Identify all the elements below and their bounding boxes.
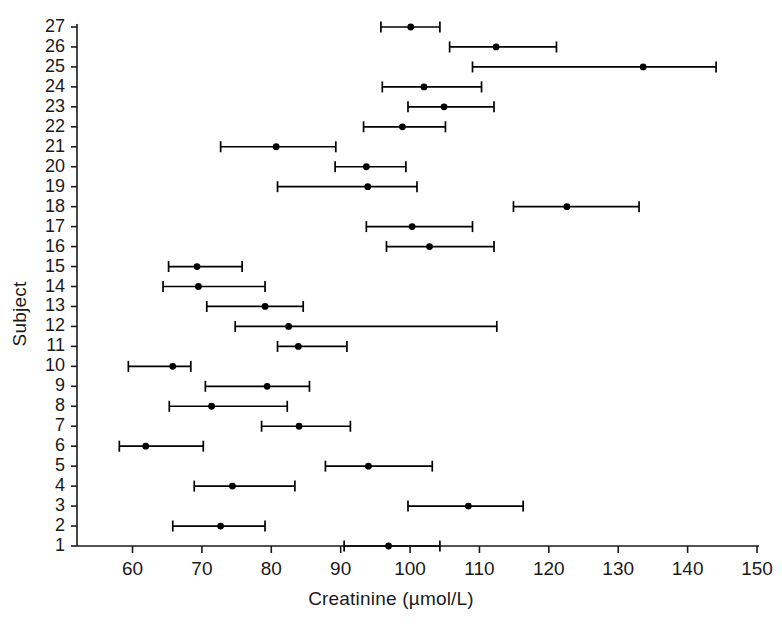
data-row-subject-9 xyxy=(205,381,309,392)
data-point-marker xyxy=(563,203,570,210)
data-point-marker xyxy=(285,323,292,330)
data-point-marker xyxy=(169,363,176,370)
data-point-marker xyxy=(296,423,303,430)
data-point-marker xyxy=(194,263,201,270)
data-row-subject-13 xyxy=(207,301,303,312)
data-row-subject-3 xyxy=(408,501,523,512)
y-tick-label-10: 10 xyxy=(25,355,65,376)
data-point-marker xyxy=(407,24,414,31)
y-tick-label-18: 18 xyxy=(25,196,65,217)
y-tick-label-21: 21 xyxy=(25,136,65,157)
x-axis-title: Creatinine (µmol/L) xyxy=(0,588,782,610)
data-row-subject-21 xyxy=(221,141,336,152)
y-tick-label-19: 19 xyxy=(25,176,65,197)
data-row-subject-7 xyxy=(262,421,351,432)
y-tick-label-13: 13 xyxy=(25,295,65,316)
y-tick-label-27: 27 xyxy=(25,16,65,37)
y-tick-label-20: 20 xyxy=(25,156,65,177)
data-point-marker xyxy=(273,143,280,150)
data-row-subject-24 xyxy=(382,81,481,92)
y-tick-label-25: 25 xyxy=(25,56,65,77)
data-point-marker xyxy=(409,223,416,230)
axis-lines xyxy=(77,24,759,546)
chart-root: Subject 12345678910111213141516171819202… xyxy=(0,0,782,628)
data-row-subject-19 xyxy=(278,181,417,192)
x-tick-label-90: 90 xyxy=(311,558,371,580)
y-tick-label-3: 3 xyxy=(25,495,65,516)
data-row-subject-17 xyxy=(366,221,472,232)
x-tick-label-120: 120 xyxy=(519,558,579,580)
data-point-marker xyxy=(385,543,392,550)
data-point-marker xyxy=(441,103,448,110)
data-point-marker xyxy=(364,183,371,190)
x-tick-label-150: 150 xyxy=(727,558,782,580)
data-row-subject-22 xyxy=(364,121,446,132)
y-tick-label-9: 9 xyxy=(25,375,65,396)
data-point-marker xyxy=(399,123,406,130)
data-point-marker xyxy=(264,383,271,390)
x-tick-label-70: 70 xyxy=(172,558,232,580)
y-tick-label-1: 1 xyxy=(25,535,65,556)
data-point-marker xyxy=(493,44,500,51)
y-tick-label-11: 11 xyxy=(25,335,65,356)
data-series xyxy=(119,22,716,552)
data-row-subject-16 xyxy=(386,241,494,252)
data-row-subject-8 xyxy=(169,401,287,412)
x-tick-label-80: 80 xyxy=(241,558,301,580)
data-point-marker xyxy=(365,463,372,470)
y-tick-label-26: 26 xyxy=(25,36,65,57)
data-point-marker xyxy=(142,443,149,450)
data-row-subject-6 xyxy=(119,441,203,452)
y-tick-label-16: 16 xyxy=(25,236,65,257)
x-tick-label-130: 130 xyxy=(588,558,648,580)
data-point-marker xyxy=(465,503,472,510)
y-tick-label-7: 7 xyxy=(25,415,65,436)
x-tick-label-140: 140 xyxy=(658,558,718,580)
data-row-subject-18 xyxy=(513,201,639,212)
y-tick-label-15: 15 xyxy=(25,256,65,277)
data-point-marker xyxy=(208,403,215,410)
y-tick-label-6: 6 xyxy=(25,435,65,456)
data-row-subject-23 xyxy=(408,101,494,112)
data-row-subject-14 xyxy=(163,281,265,292)
x-tick-label-110: 110 xyxy=(449,558,509,580)
data-point-marker xyxy=(195,283,202,290)
data-row-subject-27 xyxy=(381,22,440,33)
data-point-marker xyxy=(229,483,236,490)
y-tick-label-17: 17 xyxy=(25,216,65,237)
y-tick-label-24: 24 xyxy=(25,76,65,97)
data-row-subject-10 xyxy=(128,361,190,372)
y-tick-label-8: 8 xyxy=(25,395,65,416)
data-row-subject-4 xyxy=(194,481,295,492)
data-row-subject-15 xyxy=(169,261,243,272)
y-tick-label-23: 23 xyxy=(25,96,65,117)
data-row-subject-20 xyxy=(335,161,406,172)
data-point-marker xyxy=(640,64,647,71)
data-row-subject-2 xyxy=(173,521,265,532)
y-tick-label-4: 4 xyxy=(25,475,65,496)
x-tick-label-100: 100 xyxy=(380,558,440,580)
data-row-subject-12 xyxy=(235,321,497,332)
data-point-marker xyxy=(363,163,370,170)
data-point-marker xyxy=(426,243,433,250)
y-tick-label-12: 12 xyxy=(25,315,65,336)
x-tick-label-60: 60 xyxy=(103,558,163,580)
y-tick-label-14: 14 xyxy=(25,276,65,297)
data-point-marker xyxy=(421,83,428,90)
data-row-subject-1 xyxy=(344,541,440,552)
y-tick-label-5: 5 xyxy=(25,455,65,476)
data-row-subject-26 xyxy=(450,41,557,52)
y-tick-label-2: 2 xyxy=(25,515,65,536)
data-point-marker xyxy=(217,523,224,530)
data-row-subject-5 xyxy=(325,461,432,472)
chart-canvas xyxy=(0,0,782,628)
y-tick-label-22: 22 xyxy=(25,116,65,137)
data-row-subject-25 xyxy=(473,61,717,72)
data-point-marker xyxy=(262,303,269,310)
data-row-subject-11 xyxy=(278,341,347,352)
data-point-marker xyxy=(295,343,302,350)
